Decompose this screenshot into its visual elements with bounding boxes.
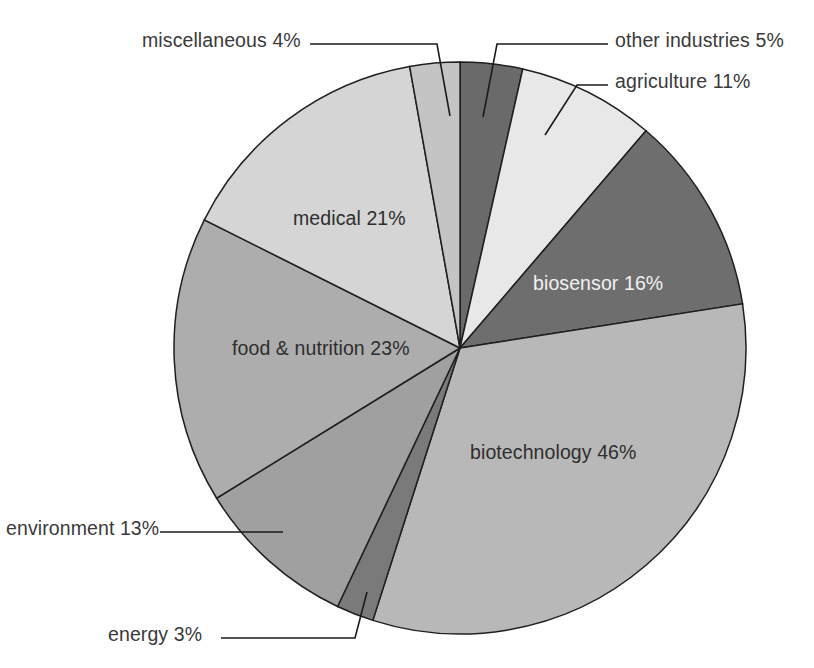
label-environment: environment 13%: [6, 519, 159, 539]
label-other-industries: other industries 5%: [615, 31, 784, 51]
pie-chart: miscellaneous 4% other industries 5% agr…: [0, 0, 814, 668]
label-biosensor: biosensor 16%: [533, 274, 663, 294]
label-energy: energy 3%: [108, 625, 202, 645]
label-biotechnology: biotechnology 46%: [470, 443, 637, 463]
label-miscellaneous: miscellaneous 4%: [142, 31, 301, 51]
label-food-nutrition: food & nutrition 23%: [232, 339, 410, 359]
label-medical: medical 21%: [293, 209, 406, 229]
label-agriculture: agriculture 11%: [615, 72, 751, 92]
pie-chart-canvas: [0, 0, 814, 668]
